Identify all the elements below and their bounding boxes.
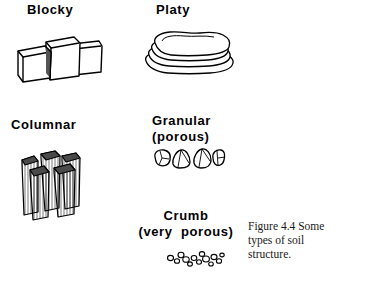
columnar-label: Columnar [11, 117, 76, 132]
platy-label: Platy [156, 2, 190, 17]
columnar-prisms-illustration [18, 146, 88, 220]
blocky-cubes-illustration [14, 28, 106, 84]
soil-structure-figure: Blocky Platy [0, 0, 365, 282]
crumb-specks-illustration [167, 249, 225, 271]
granular-label: Granular(porous) [152, 113, 211, 145]
granular-label-line1: Granular [152, 113, 211, 128]
figure-caption: Figure 4.4 Some types of soil structure. [248, 219, 360, 261]
platy-stacked-plates-illustration [142, 29, 238, 79]
granular-label-line2: (porous) [152, 129, 210, 144]
crumb-label-line2: (very porous) [138, 224, 233, 239]
blocky-label: Blocky [27, 2, 73, 17]
crumb-label-line1: Crumb [164, 208, 209, 223]
crumb-label: Crumb(very porous) [128, 208, 244, 240]
granular-grains-illustration [151, 147, 226, 171]
